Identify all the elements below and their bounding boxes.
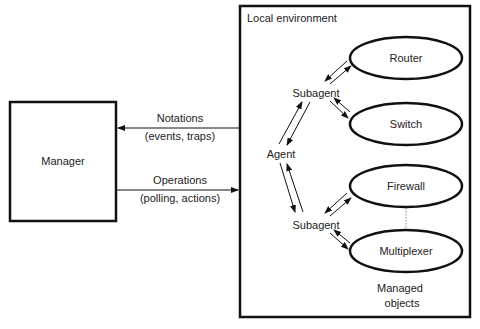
managed-object-switch: Switch xyxy=(350,103,462,145)
subagent-firewall-arrows xyxy=(325,193,351,216)
subagent-bottom-label: Subagent xyxy=(292,219,339,231)
local-environment-label: Local environment xyxy=(247,12,337,24)
notations-sublabel: (events, traps) xyxy=(145,130,215,142)
notations-arrow: Notations (events, traps) xyxy=(118,112,240,142)
managed-object-multiplexer: Multiplexer xyxy=(350,230,462,272)
operations-label: Operations xyxy=(153,174,207,186)
operations-sublabel: (polling, actions) xyxy=(140,192,220,204)
managed-object-router: Router xyxy=(350,37,462,79)
agent-subagent-bottom-arrows xyxy=(280,163,303,212)
managed-object-firewall: Firewall xyxy=(350,165,462,207)
notations-label: Notations xyxy=(157,112,204,124)
subagent-router-arrows xyxy=(325,61,351,84)
subagent-top-label: Subagent xyxy=(292,87,339,99)
manager-label: Manager xyxy=(41,155,85,167)
snmp-diagram: Manager Local environment Notations (eve… xyxy=(0,0,480,329)
router-label: Router xyxy=(389,52,422,64)
manager-node: Manager xyxy=(10,102,116,221)
switch-label: Switch xyxy=(390,118,422,130)
managed-objects-caption-line2: objects xyxy=(385,297,420,309)
agent-label: Agent xyxy=(267,148,296,160)
firewall-label: Firewall xyxy=(387,180,425,192)
subagent-multiplexer-arrows xyxy=(330,230,350,249)
managed-objects-caption-line1: Managed xyxy=(377,282,423,294)
subagent-switch-arrows xyxy=(330,98,350,118)
agent-subagent-top-arrows xyxy=(279,102,310,145)
multiplexer-label: Multiplexer xyxy=(379,245,433,257)
operations-arrow: Operations (polling, actions) xyxy=(116,174,238,204)
